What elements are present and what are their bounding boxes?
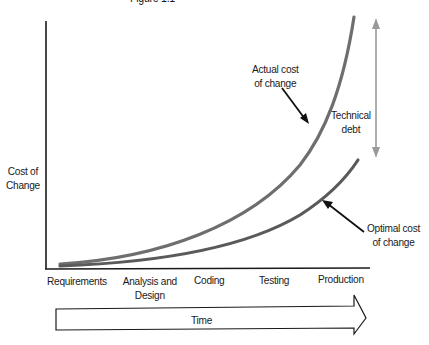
x-label-coding: Coding bbox=[194, 273, 224, 287]
x-axis bbox=[45, 268, 370, 269]
actual-label-line2: of change bbox=[252, 76, 299, 90]
y-axis-label-line1: Cost of bbox=[6, 164, 40, 178]
debt-label-line2: debt bbox=[331, 122, 371, 136]
x-label-requirements: Requirements bbox=[47, 274, 107, 288]
actual-pointer-arrow-icon bbox=[282, 88, 309, 124]
optimal-label-line1: Optimal cost bbox=[367, 221, 420, 235]
debt-label-line1: Technical bbox=[331, 108, 371, 122]
y-axis-label-line2: Change bbox=[6, 178, 40, 192]
technical-debt-label: Technical debt bbox=[331, 108, 371, 136]
actual-cost-label: Actual cost of change bbox=[252, 62, 299, 90]
x-label-production: Production bbox=[318, 272, 364, 286]
x-label-testing: Testing bbox=[259, 273, 289, 287]
y-axis-label: Cost of Change bbox=[6, 164, 40, 192]
actual-label-line1: Actual cost bbox=[252, 62, 299, 76]
optimal-cost-label: Optimal cost of change bbox=[367, 221, 420, 249]
time-label: Time bbox=[191, 313, 212, 327]
optimal-label-line2: of change bbox=[367, 235, 420, 249]
optimal-cost-curve bbox=[60, 160, 358, 266]
actual-cost-curve bbox=[60, 17, 354, 264]
diagram-canvas bbox=[0, 0, 429, 345]
technical-debt-arrow-icon bbox=[372, 18, 380, 158]
x-label-analysis-design: Analysis and Design bbox=[119, 274, 181, 302]
optimal-pointer-arrow-icon bbox=[322, 200, 364, 232]
